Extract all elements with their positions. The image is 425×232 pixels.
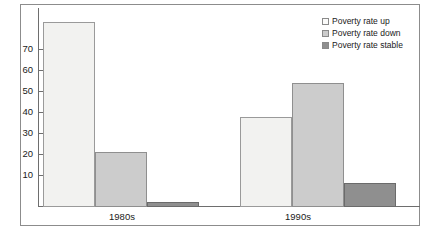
legend-label: Poverty rate stable [332,41,403,50]
legend-item-down[interactable]: Poverty rate down [322,28,403,39]
legend-item-up[interactable]: Poverty rate up [322,16,403,27]
legend-swatch-icon-down [322,30,329,37]
legend-swatch-icon-stable [322,42,329,49]
legend-label: Poverty rate down [332,29,401,38]
legend-swatch-icon-up [322,18,329,25]
legend-label: Poverty rate up [332,17,390,26]
poverty-rate-bar-chart: 70605040302010 1980s1990s Poverty rate u… [0,0,425,232]
chart-legend: Poverty rate upPoverty rate downPoverty … [322,16,403,52]
legend-item-stable[interactable]: Poverty rate stable [322,40,403,51]
